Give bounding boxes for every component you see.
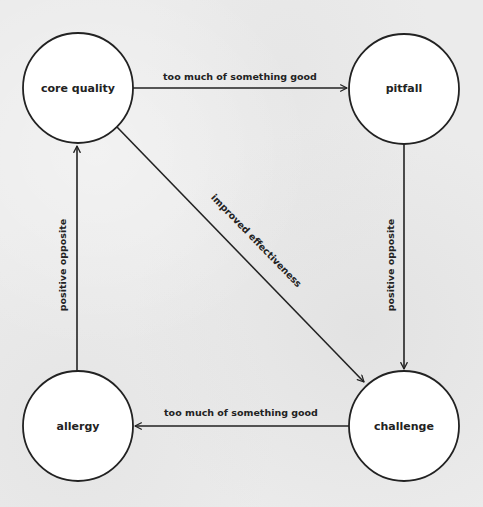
node-label-pitfall: pitfall <box>386 82 423 95</box>
edge-label-positive-opposite-left: positive opposite <box>57 219 68 312</box>
node-label-challenge: challenge <box>374 420 434 433</box>
diagram-svg: too much of something good positive oppo… <box>0 0 483 507</box>
node-label-allergy: allergy <box>57 420 100 433</box>
node-challenge: challenge <box>349 371 459 481</box>
edge-label-positive-opposite-right: positive opposite <box>385 219 396 312</box>
node-pitfall: pitfall <box>349 34 459 144</box>
arrow-diagonal-icon <box>117 127 364 382</box>
node-allergy: allergy <box>23 371 133 481</box>
edge-pitfall-to-challenge: positive opposite <box>385 144 404 369</box>
edge-core-quality-to-challenge: improved effectiveness <box>117 127 364 382</box>
edge-label-too-much-top: too much of something good <box>163 71 317 82</box>
edge-core-quality-to-pitfall: too much of something good <box>133 71 347 88</box>
edge-allergy-to-core-quality: positive opposite <box>57 146 77 371</box>
node-core-quality: core quality <box>23 33 133 143</box>
edge-label-too-much-bottom: too much of something good <box>164 407 318 418</box>
edge-label-improved-effectiveness: improved effectiveness <box>209 192 304 290</box>
edge-challenge-to-allergy: too much of something good <box>135 407 349 426</box>
core-quadrant-diagram: too much of something good positive oppo… <box>0 0 483 507</box>
node-label-core-quality: core quality <box>41 82 115 95</box>
